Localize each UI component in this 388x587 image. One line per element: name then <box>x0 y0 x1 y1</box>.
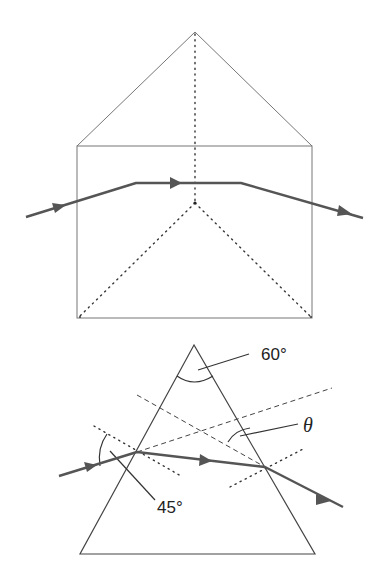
apex-angle-arc <box>177 376 213 382</box>
deviation-angle-leader <box>240 424 298 436</box>
apex-angle-leader <box>198 354 249 370</box>
deviation-angle-label: θ <box>303 414 313 436</box>
roof-right-edge <box>195 32 312 146</box>
prism-triangle <box>80 345 315 554</box>
prism-3d-view <box>26 32 363 318</box>
incidence-angle-label: 45° <box>157 498 183 517</box>
diagram-canvas: 60° 45° θ <box>0 0 388 587</box>
hidden-right-edge <box>195 203 310 316</box>
roof-left-edge <box>77 32 195 146</box>
prism-cross-section: 60° 45° θ <box>59 345 343 554</box>
corner-point <box>79 316 81 318</box>
arrow-icon <box>199 454 212 466</box>
hidden-left-edge <box>80 203 195 316</box>
arrow-icon <box>170 177 182 189</box>
apex-angle-label: 60° <box>261 345 287 364</box>
arrow-icon <box>84 462 97 472</box>
corner-point <box>310 316 312 318</box>
center-point <box>193 201 196 204</box>
